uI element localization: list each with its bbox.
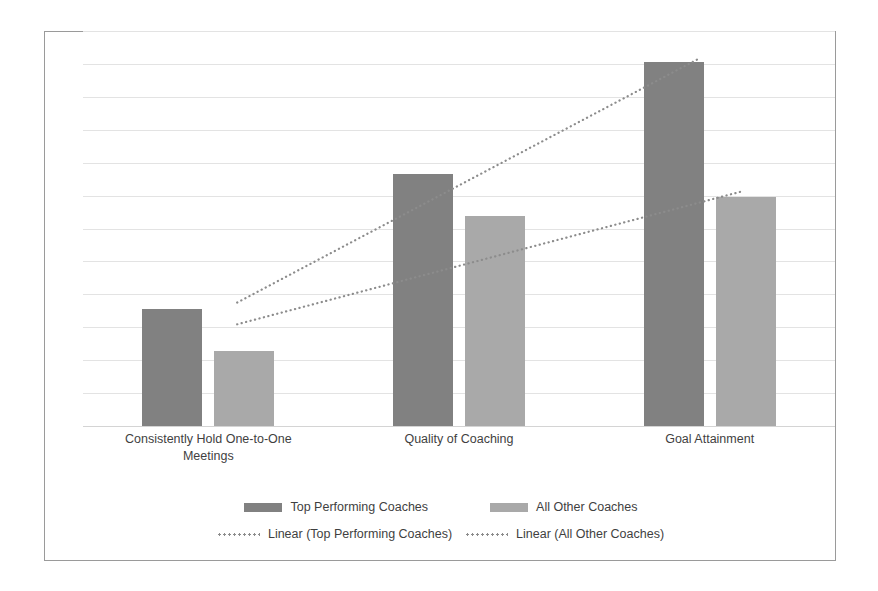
bar-top-performing[interactable]	[393, 174, 453, 427]
legend-swatch-icon	[244, 503, 282, 512]
bar-top-performing[interactable]	[142, 309, 202, 428]
bar-all-other[interactable]	[465, 216, 525, 427]
legend-label: Top Performing Coaches	[290, 500, 428, 514]
bar-all-other[interactable]	[214, 351, 274, 427]
bar-all-other[interactable]	[716, 197, 776, 427]
legend-row-trendlines: Linear (Top Performing Coaches) Linear (…	[45, 527, 837, 541]
chart-figure: Consistently Hold One-to-OneMeetingsQual…	[44, 31, 836, 561]
x-axis-tick-label: Quality of Coaching	[334, 431, 585, 448]
legend-swatch-icon	[490, 503, 528, 512]
legend-item-linear-top-performing-coaches[interactable]: Linear (Top Performing Coaches)	[218, 527, 452, 541]
bar-top-performing[interactable]	[644, 62, 704, 427]
legend-row-series: Top Performing Coaches All Other Coaches	[45, 500, 837, 514]
legend-dotted-line-icon	[466, 533, 508, 536]
axis-baseline	[83, 426, 835, 427]
legend-item-linear-all-other-coaches[interactable]: Linear (All Other Coaches)	[466, 527, 664, 541]
x-axis-labels: Consistently Hold One-to-OneMeetingsQual…	[83, 431, 835, 487]
legend-label: Linear (Top Performing Coaches)	[268, 527, 452, 541]
legend-dotted-line-icon	[218, 533, 260, 536]
legend-item-all-other-coaches[interactable]: All Other Coaches	[490, 500, 637, 514]
x-axis-tick-label: Goal Attainment	[584, 431, 835, 448]
bars-layer	[83, 32, 835, 427]
legend-label: Linear (All Other Coaches)	[516, 527, 664, 541]
legend-label: All Other Coaches	[536, 500, 637, 514]
chart-legend: Top Performing Coaches All Other Coaches…	[45, 500, 837, 554]
plot-area	[83, 32, 835, 427]
x-axis-tick-label: Consistently Hold One-to-OneMeetings	[83, 431, 334, 465]
legend-item-top-performing-coaches[interactable]: Top Performing Coaches	[244, 500, 428, 514]
